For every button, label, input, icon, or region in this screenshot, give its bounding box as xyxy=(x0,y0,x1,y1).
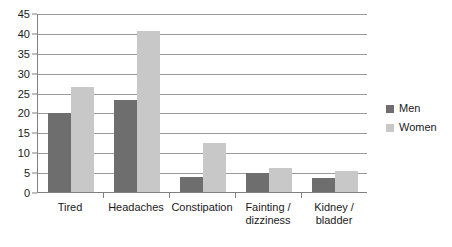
x-axis-tick xyxy=(169,193,170,198)
y-tick-label: 35 xyxy=(18,48,30,59)
legend-item-men: Men xyxy=(386,99,452,118)
x-axis-label: Headaches xyxy=(103,201,169,214)
legend-swatch-icon xyxy=(386,124,394,132)
bars-layer xyxy=(38,14,367,192)
y-tick-label: 15 xyxy=(18,128,30,139)
bar-women xyxy=(335,171,358,192)
bar-men xyxy=(312,178,335,192)
x-axis-tick xyxy=(235,193,236,198)
bar-men xyxy=(180,177,203,192)
y-tick-label: 10 xyxy=(18,148,30,159)
x-axis-tick xyxy=(103,193,104,198)
y-tick-label: 40 xyxy=(18,28,30,39)
legend-label: Women xyxy=(399,122,437,133)
legend-item-women: Women xyxy=(386,118,452,137)
bar-women xyxy=(137,31,160,192)
y-tick-label: 5 xyxy=(24,168,30,179)
x-axis-label: Fainting / dizziness xyxy=(235,201,301,227)
plot-area xyxy=(37,14,367,193)
x-axis-label: Constipation xyxy=(169,201,235,214)
y-tick-label: 25 xyxy=(18,88,30,99)
bar-women xyxy=(203,143,226,192)
bar-group xyxy=(302,14,368,192)
bar-men xyxy=(114,100,137,192)
x-axis-tick xyxy=(301,193,302,198)
y-axis: 051015202530354045 xyxy=(0,14,37,193)
bar-women xyxy=(269,168,292,192)
chart-legend: MenWomen xyxy=(386,99,452,137)
bar-women xyxy=(71,87,94,192)
y-tick-label: 0 xyxy=(24,188,30,199)
bar-group xyxy=(170,14,236,192)
x-axis: TiredHeadachesConstipationFainting / diz… xyxy=(37,193,367,247)
bar-group xyxy=(104,14,170,192)
bar-men xyxy=(246,173,269,192)
x-axis-label: Tired xyxy=(37,201,103,214)
bar-chart: 051015202530354045 TiredHeadachesConstip… xyxy=(0,0,452,247)
y-tick-label: 30 xyxy=(18,68,30,79)
x-axis-label: Kidney / bladder xyxy=(301,201,367,227)
legend-label: Men xyxy=(399,103,420,114)
bar-group xyxy=(236,14,302,192)
y-tick-label: 45 xyxy=(18,9,30,20)
legend-swatch-icon xyxy=(386,105,394,113)
y-tick-label: 20 xyxy=(18,108,30,119)
bar-men xyxy=(48,113,71,192)
bar-group xyxy=(38,14,104,192)
